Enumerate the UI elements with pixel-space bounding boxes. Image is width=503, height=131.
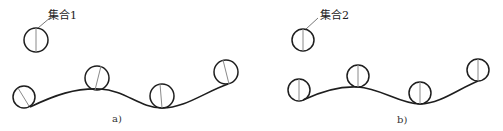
set-element-circle <box>85 66 109 90</box>
set-element-circle <box>467 59 489 81</box>
set-element-circle <box>409 82 431 104</box>
free-set-circle <box>292 29 314 51</box>
leader-line <box>306 18 318 29</box>
panel-caption: b) <box>397 114 407 125</box>
set-element-circle <box>13 86 35 108</box>
set-element-circle <box>150 84 174 108</box>
set-label: 集合1 <box>48 8 77 22</box>
panel-b: 集合2b) <box>288 8 489 125</box>
set-label: 集合2 <box>320 8 349 22</box>
diagram-canvas: 集合1a) 集合2b) <box>0 0 503 131</box>
surface-curve <box>303 81 478 104</box>
surface-curve <box>30 84 228 108</box>
diameter-line <box>160 84 162 108</box>
set-element-circle <box>214 60 238 84</box>
diameter-line <box>95 66 101 90</box>
free-set-circle <box>24 28 48 52</box>
set-element-circle <box>347 65 369 87</box>
diameter-line <box>223 60 229 84</box>
set-element-circle <box>288 79 310 101</box>
panel-caption: a) <box>112 113 122 124</box>
panel-a: 集合1a) <box>13 8 238 124</box>
diameter-line <box>18 88 29 106</box>
